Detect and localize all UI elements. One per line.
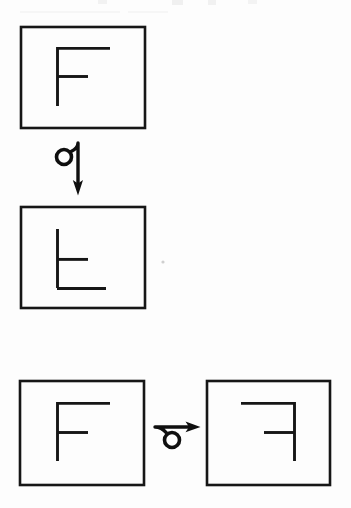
panel-bottom-right-hit	[207, 381, 330, 485]
rotation-arrow-right	[155, 422, 201, 448]
arrow-loop	[165, 433, 180, 448]
scan-speck	[161, 260, 164, 263]
arrow-shaft	[71, 143, 78, 186]
top-edge-smudge	[20, 0, 257, 13]
diagram-canvas	[0, 0, 351, 508]
panel-middle-hit	[21, 207, 145, 308]
rotation-arrow-down	[57, 143, 84, 196]
arrow-loop	[57, 150, 72, 165]
panel-bottom-left-hit	[20, 381, 144, 485]
panel-top-hit	[21, 27, 145, 128]
